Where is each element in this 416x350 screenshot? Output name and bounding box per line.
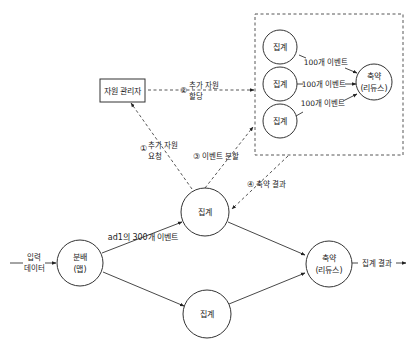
svg-text:(맵): (맵) (73, 264, 86, 274)
svg-text:(리듀스): (리듀스) (315, 266, 342, 275)
svg-text:이벤트 분할: 이벤트 분할 (202, 151, 239, 161)
edge-label-100-events-1: 100개 이벤트 (304, 57, 349, 67)
svg-text:집계: 집계 (273, 79, 287, 89)
svg-text:집계: 집계 (273, 116, 287, 126)
svg-text:추가 자원: 추가 자원 (189, 81, 219, 90)
svg-text:할당: 할당 (189, 91, 203, 101)
diagram-canvas: 자원 관리자 분배 (맵) 집계 집계 축약 (리듀스) 집계 집계 집계 축약… (0, 0, 416, 350)
svg-text:축약: 축약 (367, 71, 382, 81)
svg-text:③: ③ (193, 152, 200, 161)
edge-label-ad-events: ad1의 300개 이벤트 (108, 232, 178, 242)
cluster-aggregate-node-1: 집계 (263, 30, 297, 64)
output-label: 집계 결과 (362, 258, 392, 268)
aggregate-node-bottom: 집계 (183, 290, 231, 338)
aggregate-node-top: 집계 (181, 188, 229, 236)
step-1-request-resources: ① 추가 자원 요청 (140, 141, 178, 161)
svg-text:①: ① (140, 144, 147, 153)
svg-text:축약: 축약 (322, 253, 337, 263)
svg-text:집계: 집계 (200, 309, 214, 319)
svg-text:집계: 집계 (273, 42, 287, 52)
svg-text:데이터: 데이터 (24, 263, 45, 273)
svg-text:(리듀스): (리듀스) (360, 84, 387, 93)
svg-text:요청: 요청 (148, 152, 162, 161)
step-4-reduce-result: ④ 축약 결과 (247, 179, 286, 189)
map-node: 분배 (맵) (57, 240, 103, 286)
cluster-aggregate-node-2: 집계 (263, 67, 297, 101)
cluster-aggregate-node-3: 집계 (263, 104, 297, 138)
svg-text:축약 결과: 축약 결과 (256, 179, 286, 189)
resource-manager-node: 자원 관리자 (100, 79, 145, 102)
edge-label-100-events-2: 100개 이벤트 (302, 79, 347, 89)
edge-label-100-events-3: 100개 이벤트 (301, 98, 346, 108)
svg-text:집계: 집계 (198, 207, 212, 217)
svg-text:분배: 분배 (73, 253, 87, 262)
step-2-allocate-resources: ② 추가 자원 할당 (180, 81, 219, 101)
step-3-split-events: ③ 이벤트 분할 (193, 151, 239, 161)
input-label: 입력 (27, 253, 41, 262)
reduce-node-main: 축약 (리듀스) (306, 241, 352, 287)
svg-text:②: ② (180, 86, 187, 95)
svg-text:추가 자원: 추가 자원 (148, 141, 178, 150)
svg-text:④: ④ (247, 180, 254, 189)
svg-text:자원 관리자: 자원 관리자 (104, 86, 143, 96)
cluster-reduce-node: 축약 (리듀스) (356, 64, 392, 100)
